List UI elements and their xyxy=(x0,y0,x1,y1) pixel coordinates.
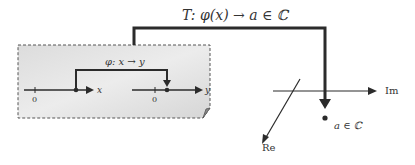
x-origin-label: 0 xyxy=(32,96,37,104)
y-axis-label: y xyxy=(205,86,210,95)
point-label: a ∈ ℂ xyxy=(334,121,362,131)
imag-axis-label: Im xyxy=(385,86,398,96)
phi-map-label: φ: x → y xyxy=(105,57,145,67)
diagram-graphics xyxy=(0,0,415,165)
complex-plane xyxy=(262,79,377,144)
real-axis-label: Re xyxy=(262,143,275,153)
t-map-label: T: φ(x) → a ∈ ℂ xyxy=(182,8,288,22)
x-axis-label: x xyxy=(97,86,102,95)
diagram-canvas: T: φ(x) → a ∈ ℂ φ: x → y x 0 y 0 Im Re a… xyxy=(0,0,415,165)
y-origin-label: 0 xyxy=(152,96,157,104)
